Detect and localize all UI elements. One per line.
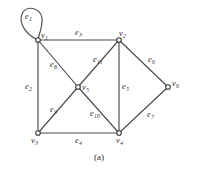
vertex-v5 (76, 85, 81, 90)
edge-label-e10: e10 (90, 109, 100, 118)
graph-figure: e1e2e3e4e5e6e7e8e9e10e11v1v2v3v4v5v6 (a) (0, 0, 207, 173)
edge-label-e2: e2 (25, 82, 32, 91)
vertex-label-v4: v4 (116, 136, 123, 145)
edge-label-e5: e5 (122, 82, 129, 91)
vertices-group (36, 38, 171, 136)
vertex-label-v3: v3 (31, 136, 38, 145)
vertex-label-v5: v5 (82, 83, 89, 92)
edge-label-e9: e9 (50, 105, 57, 114)
edge-label-e11: e11 (93, 55, 103, 64)
edge-e6 (119, 40, 168, 87)
edge-e8 (38, 40, 78, 87)
figure-caption: (a) (94, 152, 104, 162)
vertex-label-v6: v6 (172, 79, 179, 88)
vertex-v2 (117, 38, 122, 43)
vertex-v1 (36, 38, 41, 43)
vertex-label-v1: v1 (41, 31, 48, 40)
edge-label-e6: e6 (148, 55, 155, 64)
vertex-v6 (166, 85, 171, 90)
edge-label-e8: e8 (50, 60, 57, 69)
edge-e7 (119, 87, 168, 133)
edge-label-e4: e4 (75, 136, 82, 145)
edge-label-e3: e3 (75, 28, 82, 37)
edge-label-e1: e1 (25, 12, 32, 21)
edge-label-e7: e7 (147, 110, 154, 119)
vertex-v3 (36, 131, 41, 136)
edge-e9 (38, 87, 78, 133)
vertex-label-v2: v2 (119, 29, 126, 38)
